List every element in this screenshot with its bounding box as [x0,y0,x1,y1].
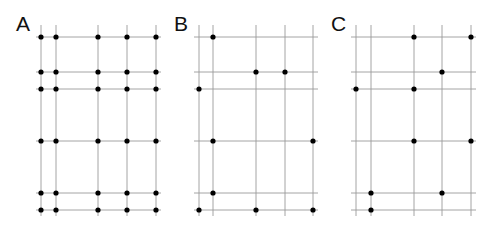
intersection-dot [282,69,287,74]
panel-a [36,25,161,216]
intersection-dot [411,86,416,91]
intersection-dot [210,138,215,143]
intersection-dot [95,34,100,39]
intersection-dot [439,190,444,195]
intersection-dot [439,69,444,74]
intersection-dot [95,69,100,74]
panel-b [194,25,318,216]
intersection-dot [38,86,43,91]
intersection-dot [124,69,129,74]
intersection-dot [38,207,43,212]
intersection-dot [310,207,315,212]
intersection-dot [153,138,158,143]
intersection-dot [95,190,100,195]
intersection-dot [124,138,129,143]
intersection-dot [38,190,43,195]
intersection-dot [468,138,473,143]
intersection-dot [53,207,58,212]
intersection-dot [38,138,43,143]
intersection-dot [253,207,258,212]
intersection-dot [253,69,258,74]
intersection-dot [124,190,129,195]
intersection-dot [468,34,473,39]
intersection-dot [153,34,158,39]
intersection-dot [368,190,373,195]
intersection-dot [95,207,100,212]
intersection-dot [153,190,158,195]
intersection-dot [196,86,201,91]
intersection-dot [310,138,315,143]
intersection-dot [196,207,201,212]
intersection-dot [210,190,215,195]
intersection-dot [210,34,215,39]
intersection-dot [95,138,100,143]
panel-c [351,25,476,216]
intersection-dot [124,86,129,91]
intersection-dot [53,34,58,39]
grid-diagram [0,0,488,227]
intersection-dot [153,86,158,91]
intersection-dot [353,86,358,91]
intersection-dot [411,138,416,143]
intersection-dot [53,138,58,143]
intersection-dot [38,34,43,39]
intersection-dot [153,69,158,74]
intersection-dot [95,86,100,91]
intersection-dot [53,86,58,91]
intersection-dot [124,207,129,212]
intersection-dot [124,34,129,39]
intersection-dot [38,69,43,74]
intersection-dot [368,207,373,212]
intersection-dot [53,190,58,195]
intersection-dot [53,69,58,74]
intersection-dot [153,207,158,212]
intersection-dot [411,34,416,39]
